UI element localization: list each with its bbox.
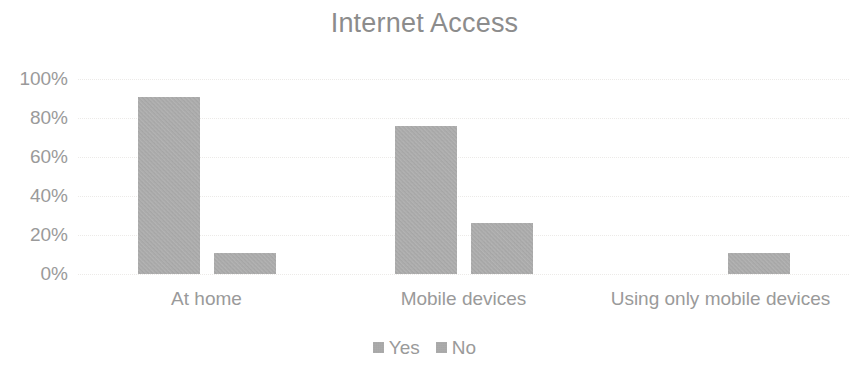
gridline bbox=[78, 274, 849, 276]
internet-access-chart: Internet Access 0%20%40%60%80%100% At ho… bbox=[0, 0, 849, 366]
legend-swatch-icon bbox=[436, 342, 447, 353]
x-axis-category-label: At home bbox=[78, 286, 335, 312]
legend-item-yes[interactable]: Yes bbox=[373, 338, 420, 357]
legend-label: No bbox=[452, 338, 476, 357]
y-axis-tick-label: 20% bbox=[0, 225, 68, 244]
legend-swatch-icon bbox=[373, 342, 384, 353]
legend-label: Yes bbox=[389, 338, 420, 357]
chart-legend: YesNo bbox=[0, 338, 849, 357]
x-axis-category-label: Mobile devices bbox=[335, 286, 592, 312]
bar-no-0 bbox=[214, 253, 276, 274]
plot-area bbox=[78, 79, 849, 274]
bar-no-1 bbox=[471, 223, 533, 274]
bar-series-group bbox=[78, 79, 849, 274]
y-axis-tick-label: 80% bbox=[0, 108, 68, 127]
bar-yes-0 bbox=[138, 97, 200, 274]
y-axis: 0%20%40%60%80%100% bbox=[0, 79, 68, 274]
y-axis-tick-label: 100% bbox=[0, 69, 68, 88]
y-axis-tick-label: 60% bbox=[0, 147, 68, 166]
legend-item-no[interactable]: No bbox=[436, 338, 476, 357]
x-axis: At homeMobile devicesUsing only mobile d… bbox=[78, 286, 849, 316]
y-axis-tick-label: 40% bbox=[0, 186, 68, 205]
bar-no-2 bbox=[728, 253, 790, 274]
y-axis-tick-label: 0% bbox=[0, 264, 68, 283]
chart-title: Internet Access bbox=[0, 6, 849, 40]
x-axis-category-label: Using only mobile devices bbox=[592, 286, 849, 312]
bar-yes-1 bbox=[395, 126, 457, 274]
